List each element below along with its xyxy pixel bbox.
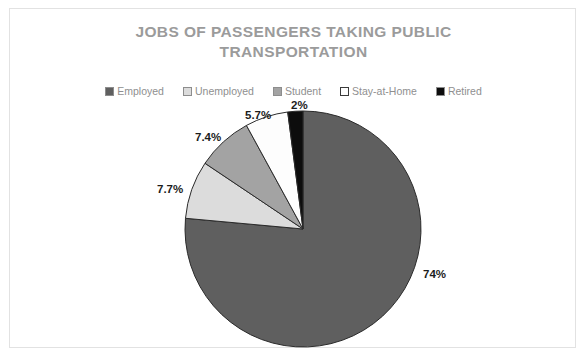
slice-label-student: 7.4%: [195, 131, 221, 143]
pie-chart-area: 74% 7.7% 7.4% 5.7% 2%: [10, 9, 577, 349]
slice-label-unemployed: 7.7%: [157, 183, 183, 195]
slice-label-stay-at-home: 5.7%: [245, 109, 271, 121]
slice-label-retired: 2%: [291, 99, 308, 111]
chart-frame: JOBS OF PASSENGERS TAKING PUBLIC TRANSPO…: [9, 8, 576, 348]
slice-label-employed: 74%: [423, 268, 446, 280]
pie-chart-svg: [10, 9, 577, 349]
